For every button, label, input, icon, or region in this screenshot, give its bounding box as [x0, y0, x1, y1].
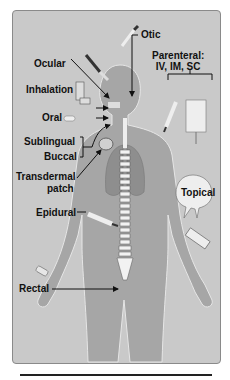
- iv-bag-icon: [186, 100, 206, 144]
- label-rectal: Rectal: [19, 283, 49, 294]
- label-parenteral-line1: Parenteral:: [152, 50, 204, 61]
- trachea: [123, 118, 127, 148]
- label-ocular: Ocular: [34, 58, 66, 69]
- suppository-icon: [35, 265, 48, 276]
- label-epidural: Epidural: [36, 207, 76, 218]
- label-inhalation: Inhalation: [26, 84, 73, 95]
- label-transdermal-line1: Transdermal: [16, 171, 75, 182]
- label-parenteral-line2: IV, IM, SC: [152, 61, 204, 72]
- label-otic: Otic: [141, 29, 160, 40]
- label-transdermal-line2: patch: [47, 183, 74, 194]
- pill-icon: [64, 116, 75, 121]
- ocular-dropper-icon: [86, 55, 108, 80]
- label-topical: Topical: [181, 187, 215, 198]
- bottom-rule: [20, 374, 212, 376]
- label-sublingual: Sublingual: [24, 136, 75, 147]
- topical-tube-icon: [185, 228, 210, 249]
- otic-dropper-icon: [122, 26, 138, 46]
- inhaler-icon: [76, 82, 90, 104]
- label-buccal: Buccal: [44, 151, 77, 162]
- label-oral: Oral: [42, 112, 62, 123]
- transdermal-patch-icon: [99, 138, 113, 150]
- syringe-icon: [164, 102, 176, 132]
- label-parenteral: Parenteral: IV, IM, SC: [152, 50, 204, 72]
- mouth: [108, 102, 120, 108]
